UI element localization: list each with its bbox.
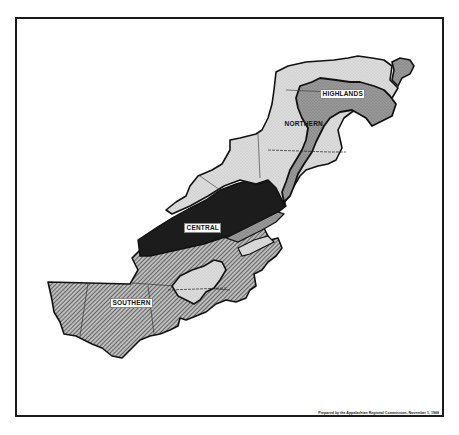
region-label-central: CENTRAL — [184, 223, 221, 233]
appalachian-region-map — [0, 0, 459, 435]
map-credit: Prepared by the Appalachian Regional Com… — [318, 411, 439, 415]
region-label-highlands: HIGHLANDS — [320, 89, 365, 99]
region-label-northern: NORTHERN — [283, 120, 324, 128]
region-highlands-tip — [392, 58, 414, 86]
region-label-southern: SOUTHERN — [110, 298, 153, 308]
